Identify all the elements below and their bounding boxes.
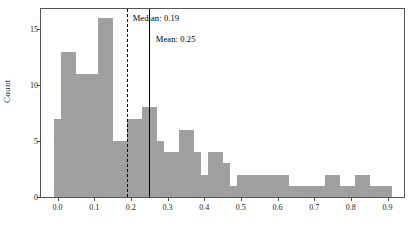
x-axis-tick [278,197,279,201]
histogram-figure: Count 051015 0.00.10.20.30.40.50.60.70.8… [0,0,413,231]
y-axis-label: Count [2,79,12,103]
y-axis-tick-label: 5 [34,137,38,146]
mean-reference-line [149,9,150,197]
x-axis-tick [351,197,352,201]
x-axis-tick [241,197,242,201]
x-axis-tick-label: 0.3 [163,203,173,212]
y-axis-tick-label: 15 [30,25,38,34]
x-axis-tick [204,197,205,201]
x-axis-tick-label: 0.9 [383,203,393,212]
x-axis-tick-label: 0.6 [273,203,283,212]
bars-layer [41,9,404,197]
x-axis-tick [168,197,169,201]
x-axis-tick-label: 0.0 [53,203,63,212]
x-axis-tick-label: 0.5 [236,203,246,212]
x-axis-tick [131,197,132,201]
y-axis-tick-label: 0 [34,193,38,202]
mean-annotation-label: Mean: 0.25 [156,34,196,44]
plot-area: 051015 0.00.10.20.30.40.50.60.70.80.9 Me… [40,8,405,198]
median-annotation-label: Median: 0.19 [133,13,180,23]
x-axis-tick [388,197,389,201]
x-axis-tick [314,197,315,201]
y-axis-tick-label: 10 [30,81,38,90]
x-axis-tick-label: 0.4 [199,203,209,212]
histogram-bar [384,186,392,197]
x-axis-tick [58,197,59,201]
median-reference-line [127,9,128,197]
x-axis-tick-label: 0.1 [89,203,99,212]
x-axis-tick-label: 0.2 [126,203,136,212]
x-axis-tick [94,197,95,201]
x-axis-tick-label: 0.8 [346,203,356,212]
x-axis-tick-label: 0.7 [309,203,319,212]
